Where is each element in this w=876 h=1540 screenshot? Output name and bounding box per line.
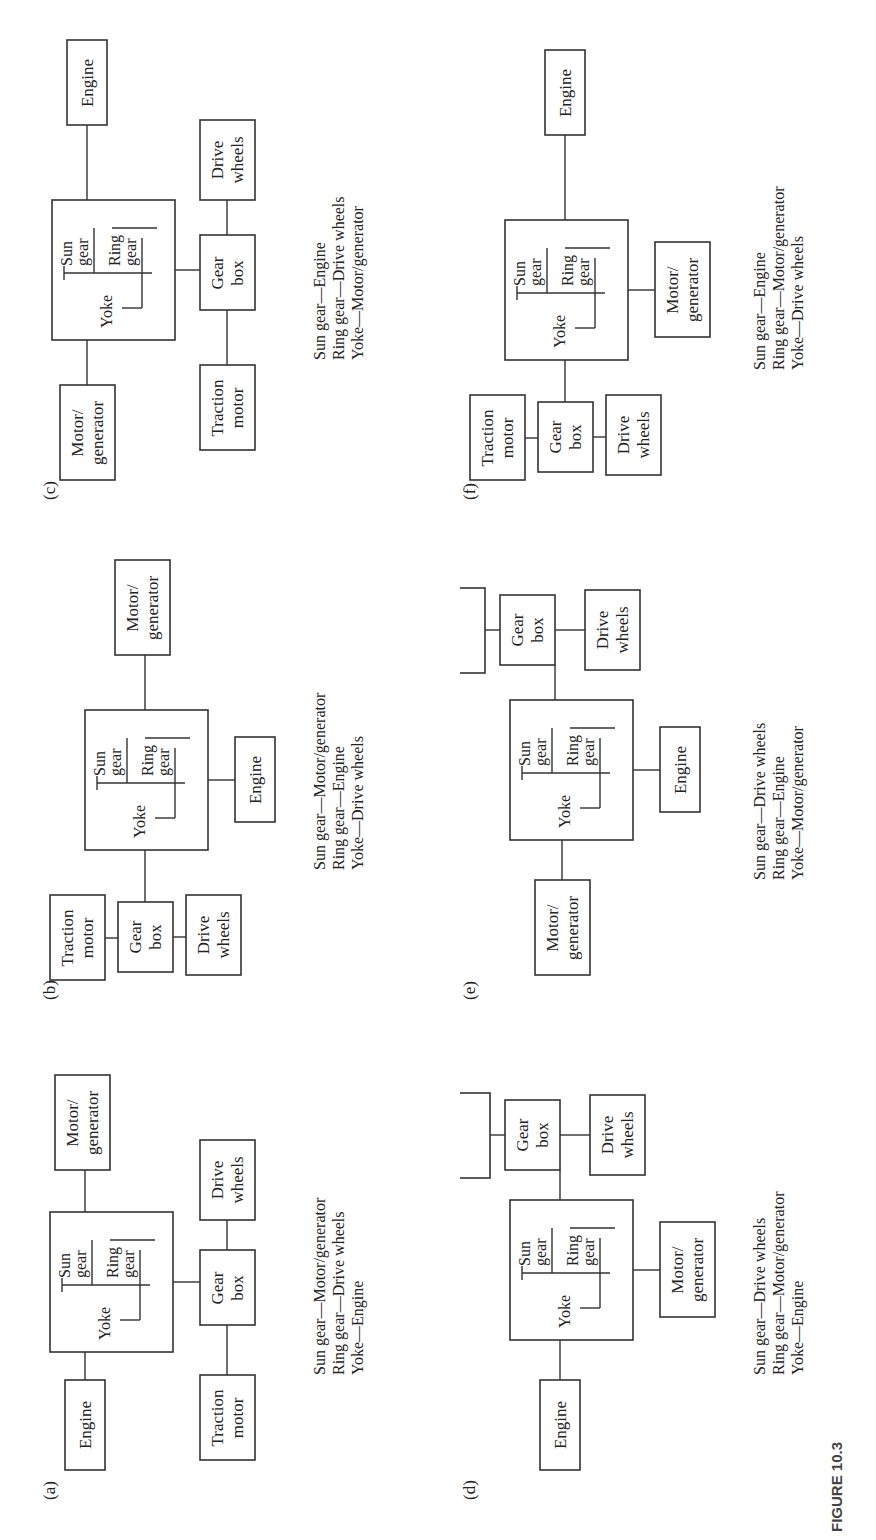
- engine-block: Engine: [540, 1380, 580, 1470]
- svg-text:wheels: wheels: [613, 606, 632, 653]
- svg-text:gear: gear: [527, 258, 545, 286]
- caption-b: Sun gear—Motor/generator Ring gear—Engin…: [310, 693, 367, 870]
- panel-a: (a) Engine Sun gear Ring gear Yoke: [40, 1000, 470, 1500]
- svg-text:box: box: [566, 424, 585, 450]
- svg-text:box: box: [228, 260, 247, 286]
- svg-text:Engine: Engine: [78, 59, 97, 107]
- svg-text:Gear: Gear: [513, 1118, 532, 1151]
- gear-box-block: Gear box: [200, 235, 255, 310]
- panel-d: (d) Engine Sun gear Ring gear Yoke: [460, 1000, 876, 1500]
- svg-text:Gear: Gear: [546, 420, 565, 453]
- caption-d: Sun gear—Drive wheels Ring gear—Motor/ge…: [750, 1192, 807, 1376]
- drive-wheels-block: Drive wheels: [590, 1095, 645, 1175]
- svg-text:wheels: wheels: [228, 1156, 247, 1203]
- drive-wheels-block: Drive wheels: [585, 590, 640, 670]
- planetary-gear-set: Sun gear Ring gear Yoke: [52, 200, 175, 340]
- svg-text:Motor/: Motor/: [668, 1246, 687, 1294]
- svg-text:Drive: Drive: [598, 1116, 617, 1155]
- svg-text:box: box: [146, 924, 165, 950]
- svg-text:Drive: Drive: [208, 1161, 227, 1200]
- gear-box-block: Gear box: [118, 902, 173, 972]
- svg-text:Gear: Gear: [208, 256, 227, 289]
- traction-motor-block: Traction motor: [200, 1375, 255, 1460]
- svg-text:generator: generator: [143, 576, 162, 641]
- svg-text:gear: gear: [122, 238, 140, 266]
- drive-wheels-block: Drive wheels: [186, 895, 241, 975]
- svg-text:generator: generator: [563, 896, 582, 961]
- planetary-gear-set: Sun gear Ring gear Yoke: [50, 1212, 173, 1352]
- diagram-e: Motor/ generator Sun gear Ring gear Yoke: [460, 500, 760, 1000]
- svg-text:Yoke: Yoke: [131, 805, 148, 838]
- svg-text:Traction: Traction: [208, 379, 227, 436]
- caption-c: Sun gear—Engine Ring gear—Drive wheels Y…: [310, 196, 367, 360]
- svg-text:Engine: Engine: [671, 746, 690, 794]
- svg-text:Yoke: Yoke: [98, 295, 115, 328]
- svg-text:wheels: wheels: [214, 911, 233, 958]
- svg-text:gear: gear: [155, 748, 173, 776]
- svg-text:Drive: Drive: [614, 416, 633, 455]
- diagram-c: Motor/ generator Sun gear Ring gear Yoke: [40, 0, 340, 500]
- planetary-gear-set: Sun gear Ring gear Yoke: [510, 1200, 633, 1340]
- svg-text:gear: gear: [575, 258, 593, 286]
- gear-box-block: Gear box: [505, 1100, 560, 1170]
- svg-text:Gear: Gear: [126, 920, 145, 953]
- svg-text:Engine: Engine: [551, 1401, 570, 1449]
- engine-block: Engine: [65, 1380, 105, 1470]
- diagram-a: Engine Sun gear Ring gear Yoke: [40, 1000, 340, 1500]
- panel-b: (b) Traction motor Gear box Drive wheels: [40, 500, 470, 1000]
- svg-text:Motor/: Motor/: [543, 904, 562, 952]
- svg-text:box: box: [228, 1275, 247, 1301]
- svg-text:Drive: Drive: [194, 916, 213, 955]
- svg-text:generator: generator: [688, 1238, 707, 1303]
- traction-motor-block: Traction motor: [50, 895, 105, 980]
- svg-text:Motor/: Motor/: [123, 584, 142, 632]
- diagram-f: Traction motor Gear box Drive wheels Sun…: [460, 0, 760, 500]
- planetary-gear-set: Sun gear Ring gear Yoke: [510, 700, 633, 840]
- svg-text:motor: motor: [228, 1397, 247, 1438]
- svg-text:motor: motor: [78, 917, 97, 958]
- svg-text:Sun: Sun: [91, 751, 108, 776]
- drive-wheels-block: Drive wheels: [200, 120, 255, 200]
- svg-text:wheels: wheels: [634, 411, 653, 458]
- traction-motor-block: Traction motor: [470, 395, 525, 480]
- engine-block: Engine: [545, 50, 585, 135]
- motor-generator-block: Motor/ generator: [60, 385, 115, 480]
- diagram-b: Traction motor Gear box Drive wheels Sun…: [40, 500, 340, 1000]
- svg-text:gear: gear: [580, 738, 598, 766]
- gear-box-block: Gear box: [500, 595, 555, 665]
- engine-block: Engine: [235, 737, 275, 822]
- svg-text:Engine: Engine: [556, 69, 575, 117]
- svg-text:gear: gear: [532, 1238, 550, 1266]
- caption-e: Sun gear—Drive wheels Ring gear—Engine Y…: [750, 723, 807, 880]
- svg-text:gear: gear: [532, 738, 550, 766]
- planetary-gear-set: Sun gear Ring gear Yoke: [505, 220, 628, 360]
- drive-wheels-block: Drive wheels: [606, 395, 661, 475]
- svg-text:motor: motor: [228, 387, 247, 428]
- svg-text:Sun: Sun: [516, 1241, 533, 1266]
- drive-wheels-block: Drive wheels: [200, 1140, 255, 1220]
- svg-text:generator: generator: [83, 1091, 102, 1156]
- svg-text:Yoke: Yoke: [96, 1307, 113, 1340]
- gear-box-block: Gear box: [200, 1250, 255, 1325]
- planetary-gear-set: Sun gear Ring gear Yoke: [85, 710, 208, 850]
- svg-text:Motor/: Motor/: [63, 1099, 82, 1147]
- motor-generator-block: Motor/ generator: [115, 560, 170, 655]
- svg-text:gear: gear: [74, 238, 92, 266]
- svg-text:wheels: wheels: [618, 1111, 637, 1158]
- svg-text:Sun: Sun: [56, 1253, 73, 1278]
- svg-text:Yoke: Yoke: [556, 795, 573, 828]
- panel-c: (c) Motor/ generator Sun gear Ring gear …: [40, 0, 470, 500]
- svg-text:gear: gear: [120, 1250, 138, 1278]
- svg-text:wheels: wheels: [228, 136, 247, 183]
- svg-text:Gear: Gear: [508, 613, 527, 646]
- svg-text:generator: generator: [683, 258, 702, 323]
- figure-label: FIGURE 10.3: [828, 1442, 845, 1532]
- svg-text:generator: generator: [88, 401, 107, 466]
- caption-a: Sun gear—Motor/generator Ring gear—Drive…: [310, 1198, 367, 1375]
- svg-text:gear: gear: [580, 1238, 598, 1266]
- svg-text:box: box: [533, 1122, 552, 1148]
- svg-text:Gear: Gear: [208, 1271, 227, 1304]
- svg-text:Sun: Sun: [511, 261, 528, 286]
- motor-generator-block: Motor/ generator: [655, 242, 710, 337]
- svg-text:Drive: Drive: [208, 141, 227, 180]
